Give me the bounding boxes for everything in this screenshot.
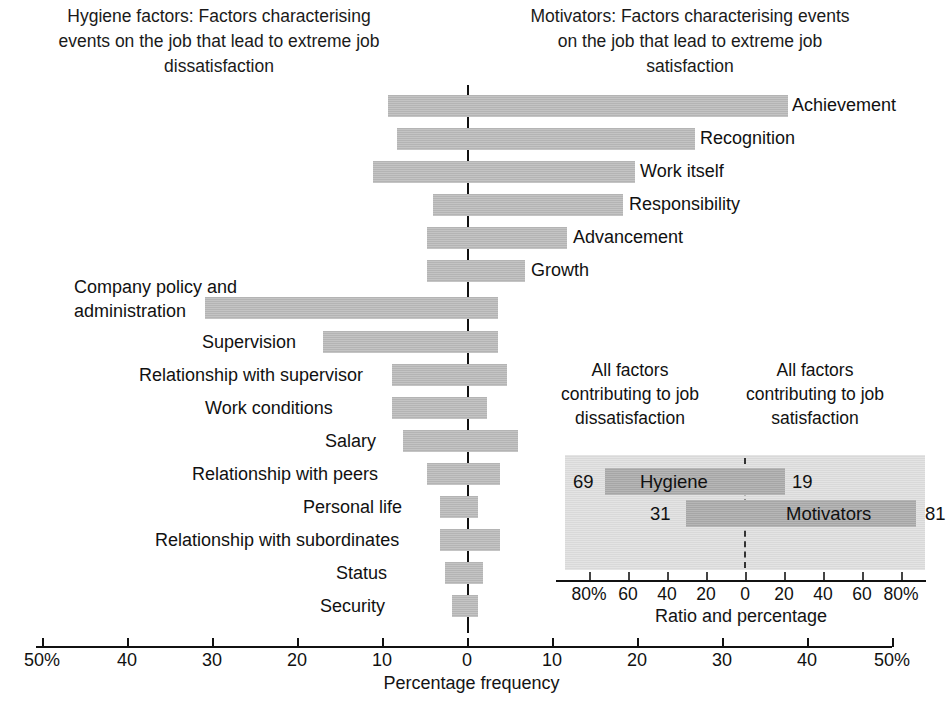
bar-relationship-with-peers [427, 463, 500, 485]
inset-axis-tick [862, 572, 864, 580]
bar-achievement [388, 95, 788, 117]
inset-axis-tick [823, 572, 825, 580]
bar-salary [403, 430, 518, 452]
hygiene-header: Hygiene factors: Factors characterising … [54, 4, 384, 79]
inset-header-dissatisfaction: All factors contributing to job dissatis… [560, 358, 700, 430]
axis-tick [892, 638, 894, 647]
inset-bar-label: Hygiene [640, 468, 708, 495]
inset-axis-tick [706, 572, 708, 580]
axis-tick [212, 638, 214, 647]
inset-axis-line [556, 580, 926, 582]
bar-label: Status [336, 563, 387, 584]
inset-axis-tick [628, 572, 630, 580]
axis-tick [297, 638, 299, 647]
inset-axis-tick [667, 572, 669, 580]
x-axis-title: Percentage frequency [0, 673, 943, 694]
bar-work-conditions [392, 397, 487, 419]
axis-tick-label: 30 [692, 650, 752, 671]
inset-axis-tick [589, 572, 591, 580]
axis-tick [42, 638, 44, 647]
inset-axis-tick [784, 572, 786, 580]
inset-axis-tick [901, 572, 903, 580]
axis-tick-label: 30 [182, 650, 242, 671]
bar-label: Personal life [303, 497, 402, 518]
bar-relationship-with-supervisor [392, 364, 507, 386]
inset-bar-label: Motivators [786, 500, 871, 527]
axis-tick-label: 40 [97, 650, 157, 671]
axis-tick-label: 40 [777, 650, 837, 671]
bar-label: Recognition [700, 128, 795, 149]
axis-tick [382, 638, 384, 647]
bar-supervision [323, 331, 498, 353]
axis-tick-label: 0 [437, 650, 497, 671]
bar-label: Achievement [792, 95, 896, 116]
bar-advancement [427, 227, 567, 249]
axis-tick [467, 638, 469, 647]
bar-label: Work itself [640, 161, 724, 182]
inset-axis-tick [745, 572, 747, 580]
inset-value-dissatisfaction: 31 [650, 500, 671, 527]
inset-value-satisfaction: 19 [792, 468, 813, 495]
axis-tick-label: 20 [607, 650, 667, 671]
motivators-header: Motivators: Factors characterising event… [520, 4, 860, 79]
bar-label: Salary [325, 431, 376, 452]
bar-growth [427, 260, 525, 282]
bar-label: Security [320, 596, 385, 617]
axis-tick [807, 638, 809, 647]
bar-personal-life [440, 496, 478, 518]
bar-status [445, 562, 483, 584]
inset-value-satisfaction: 81 [925, 500, 946, 527]
bar-relationship-with-subordinates [440, 529, 500, 551]
bar-security [452, 595, 478, 617]
bar-label: Relationship with subordinates [155, 530, 399, 551]
axis-tick-label: 10 [352, 650, 412, 671]
bar-label: Relationship with peers [192, 464, 378, 485]
axis-tick [552, 638, 554, 647]
bar-label: Company policy and administration [74, 275, 249, 323]
axis-tick [127, 638, 129, 647]
inset-axis-tick-label: 80% [878, 584, 924, 605]
bar-work-itself [373, 161, 635, 183]
bar-label: Responsibility [629, 194, 740, 215]
axis-tick [637, 638, 639, 647]
bar-label: Advancement [573, 227, 683, 248]
inset-header-satisfaction: All factors contributing to job satisfac… [745, 358, 885, 430]
axis-tick-label: 50% [12, 650, 72, 671]
axis-tick-label: 10 [522, 650, 582, 671]
bar-label: Work conditions [205, 398, 333, 419]
bar-responsibility [433, 194, 623, 216]
axis-tick [722, 638, 724, 647]
bar-label: Supervision [202, 332, 296, 353]
inset-value-dissatisfaction: 69 [573, 468, 594, 495]
inset-axis-title: Ratio and percentage [556, 606, 926, 627]
axis-tick-label: 20 [267, 650, 327, 671]
bar-label: Growth [531, 260, 589, 281]
axis-tick-label: 50% [862, 650, 922, 671]
x-axis-line [36, 646, 892, 648]
bar-recognition [397, 128, 695, 150]
bar-label: Relationship with supervisor [139, 365, 363, 386]
